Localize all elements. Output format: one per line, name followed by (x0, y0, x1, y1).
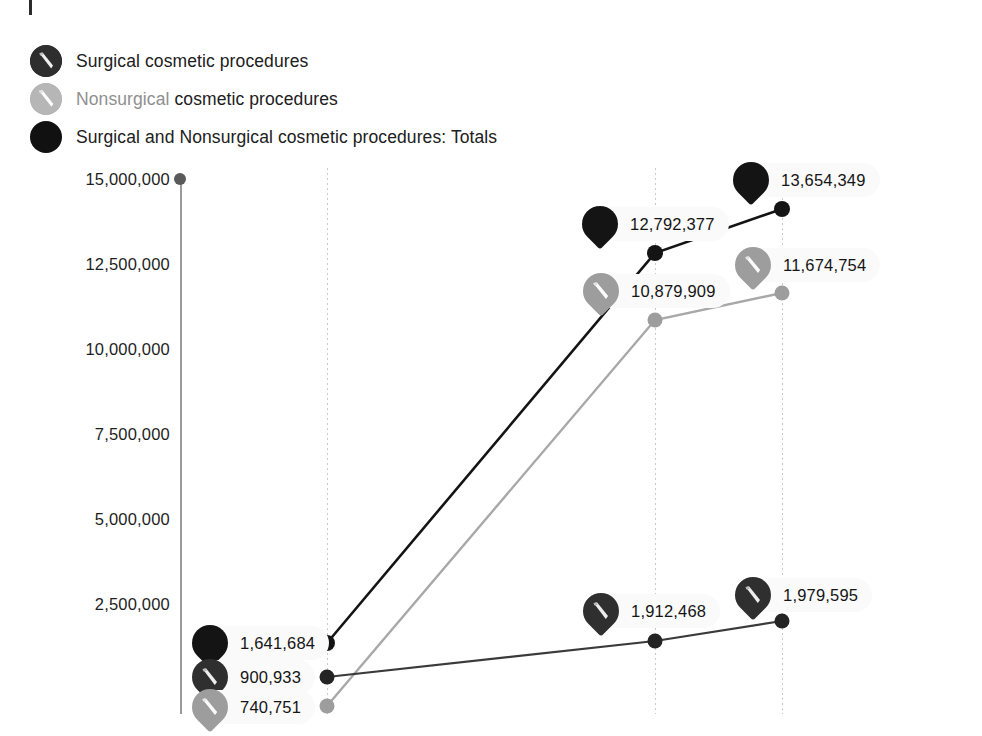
series-line-surgical (327, 621, 782, 677)
data-point-nonsurgical-2 (648, 313, 663, 328)
data-label-totals-3: 13,654,349 (735, 163, 880, 197)
data-point-nonsurgical-3 (775, 286, 790, 301)
data-point-totals-3 (774, 201, 790, 217)
data-label-nonsurgical-1: 740,751 (194, 690, 315, 724)
series-line-nonsurgical (327, 293, 782, 706)
data-point-nonsurgical-1 (320, 699, 335, 714)
data-label-surgical-3: 1,979,595 (737, 578, 872, 612)
data-label-value: 1,641,684 (240, 634, 315, 653)
data-label-nonsurgical-2: 10,879,909 (585, 274, 730, 308)
data-label-totals-2: 12,792,377 (584, 207, 729, 241)
data-label-value: 740,751 (240, 698, 301, 717)
syringe-pin-icon (185, 682, 236, 733)
data-label-value: 12,792,377 (630, 215, 715, 234)
data-label-value: 13,654,349 (781, 171, 866, 190)
data-point-surgical-2 (648, 634, 663, 649)
scalpel-pin-icon (728, 570, 779, 621)
data-label-nonsurgical-3: 11,674,754 (737, 248, 880, 282)
data-label-value: 11,674,754 (783, 256, 866, 275)
data-point-totals-2 (647, 245, 663, 261)
syringe-pin-icon (728, 240, 779, 291)
data-label-value: 1,979,595 (783, 586, 858, 605)
data-label-surgical-2: 1,912,468 (585, 594, 720, 628)
data-label-value: 10,879,909 (631, 282, 716, 301)
data-point-surgical-3 (775, 614, 790, 629)
scalpel-pin-icon (576, 586, 627, 637)
data-label-value: 900,933 (240, 668, 301, 687)
data-point-surgical-1 (320, 670, 335, 685)
data-label-totals-1: 1,641,684 (194, 626, 329, 660)
data-label-value: 1,912,468 (631, 602, 706, 621)
syringe-pin-icon (576, 266, 627, 317)
